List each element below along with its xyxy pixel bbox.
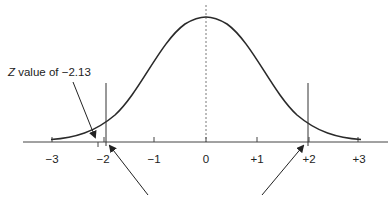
tick-label-neg1: −1	[147, 153, 160, 165]
axis-ticks	[52, 137, 358, 142]
tick-label-pos1: +1	[250, 153, 263, 165]
tick-label-pos2: +2	[302, 153, 315, 165]
tick-label-neg2: −2	[96, 153, 109, 165]
z-value-text: value of −2.13	[15, 66, 91, 78]
z-value-arrow	[73, 82, 95, 137]
tick-label-pos3: +3	[352, 153, 365, 165]
z-value-label: Z value of −2.13	[7, 66, 91, 78]
tick-label-0: 0	[203, 153, 209, 165]
arrow-to-neg2	[110, 146, 148, 195]
arrow-to-pos2	[262, 146, 303, 195]
tick-label-neg3: −3	[45, 153, 58, 165]
tick-labels: −3 −2 −1 0 +1 +2 +3	[45, 153, 365, 165]
normal-curve-diagram: −3 −2 −1 0 +1 +2 +3 Z value of −2.13	[0, 0, 392, 202]
